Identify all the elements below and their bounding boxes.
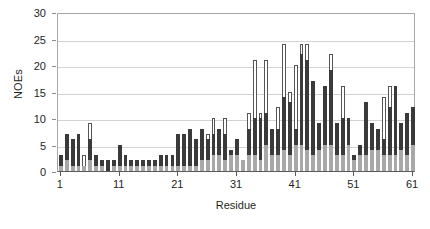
x-axis-tick-label: 51 [347, 178, 359, 190]
bar [188, 129, 192, 171]
plot-area [57, 13, 415, 172]
bar-segment [159, 155, 163, 166]
bar-segment [235, 139, 239, 155]
bar-segment [364, 155, 368, 171]
bar [153, 160, 157, 171]
bar [405, 113, 409, 171]
bar [94, 155, 98, 171]
y-axis-tick-mark [52, 66, 56, 67]
bar-segment [135, 166, 139, 171]
bar [235, 139, 239, 171]
bar [247, 113, 251, 171]
bar-segment [253, 118, 257, 155]
bar-segment [405, 113, 409, 155]
bar-segment [300, 54, 304, 144]
bar-segment [388, 107, 392, 155]
bar [394, 86, 398, 171]
bar-segment [71, 166, 75, 171]
bar [171, 155, 175, 171]
bar-segment [65, 160, 69, 171]
bar-segment [376, 150, 380, 171]
bar-segment [171, 166, 175, 171]
bar-segment [259, 160, 263, 171]
bar-segment [370, 150, 374, 171]
bar-segment [294, 129, 298, 145]
bar-segment [399, 150, 403, 171]
bar-segment [264, 60, 268, 113]
bar [253, 60, 257, 171]
x-axis-tick-mark [412, 172, 413, 176]
y-axis-ticks: 051015202530 [0, 0, 54, 229]
bar-segment [329, 70, 333, 144]
bar-segment [276, 107, 280, 128]
bar-segment [165, 155, 169, 166]
bar-segment [323, 145, 327, 172]
bar-segment [335, 155, 339, 171]
bar [165, 155, 169, 171]
bar [323, 86, 327, 171]
bar-segment [394, 155, 398, 171]
bar [294, 65, 298, 171]
bar-segment [188, 166, 192, 171]
bar-segment [77, 134, 81, 166]
bar [282, 44, 286, 171]
x-axis-tick-mark [353, 172, 354, 176]
bar [305, 44, 309, 171]
bar [212, 118, 216, 171]
bar [347, 118, 351, 171]
bar-segment [94, 166, 98, 171]
bar [341, 86, 345, 171]
y-axis-tick-label: 15 [34, 87, 46, 99]
bar [388, 86, 392, 171]
bar-segment [259, 118, 263, 160]
bar-segment [118, 145, 122, 166]
y-axis-tick-mark [52, 93, 56, 94]
bar [141, 160, 145, 171]
bar [106, 160, 110, 171]
bar [411, 107, 415, 171]
bar-segment [341, 118, 345, 155]
bar-segment [323, 86, 327, 144]
bar-segment [94, 155, 98, 166]
bar [176, 134, 180, 171]
x-axis-tick-mark [177, 172, 178, 176]
bar [259, 113, 263, 171]
bar [82, 155, 86, 171]
bar [311, 81, 315, 171]
bar-segment [200, 160, 204, 171]
bar [370, 123, 374, 171]
bar-segment [341, 155, 345, 171]
bar-segment [282, 97, 286, 150]
bar-segment [247, 113, 251, 129]
bar-segment [129, 166, 133, 171]
bar-segment [300, 44, 304, 55]
bar [100, 160, 104, 171]
bar-segment [270, 129, 274, 156]
bar-segment [288, 155, 292, 171]
x-axis-tick-mark [236, 172, 237, 176]
bar [129, 160, 133, 171]
x-axis-tick-label: 31 [230, 178, 242, 190]
bar-segment [376, 129, 380, 150]
bar-segment [229, 155, 233, 171]
bar-segment [352, 160, 356, 171]
bar-segment [165, 166, 169, 171]
bar-segment [394, 86, 398, 155]
bar-segment [305, 60, 309, 150]
noes-per-residue-chart: NOEs 051015202530 1112131415161 Residue [0, 0, 430, 229]
bar-segment [206, 139, 210, 160]
bar-segment [88, 123, 92, 139]
x-axis-tick-mark [119, 172, 120, 176]
bar-segment [171, 155, 175, 166]
bar [288, 92, 292, 171]
bar-segment [288, 92, 292, 103]
bar-segment [335, 123, 339, 155]
y-axis-tick-label: 20 [34, 60, 46, 72]
bar [200, 129, 204, 171]
bar-segment [311, 155, 315, 171]
bar-segment [241, 160, 245, 171]
bar [182, 134, 186, 171]
bar-segment [264, 113, 268, 145]
y-axis-tick-mark [52, 40, 56, 41]
bar [159, 155, 163, 171]
